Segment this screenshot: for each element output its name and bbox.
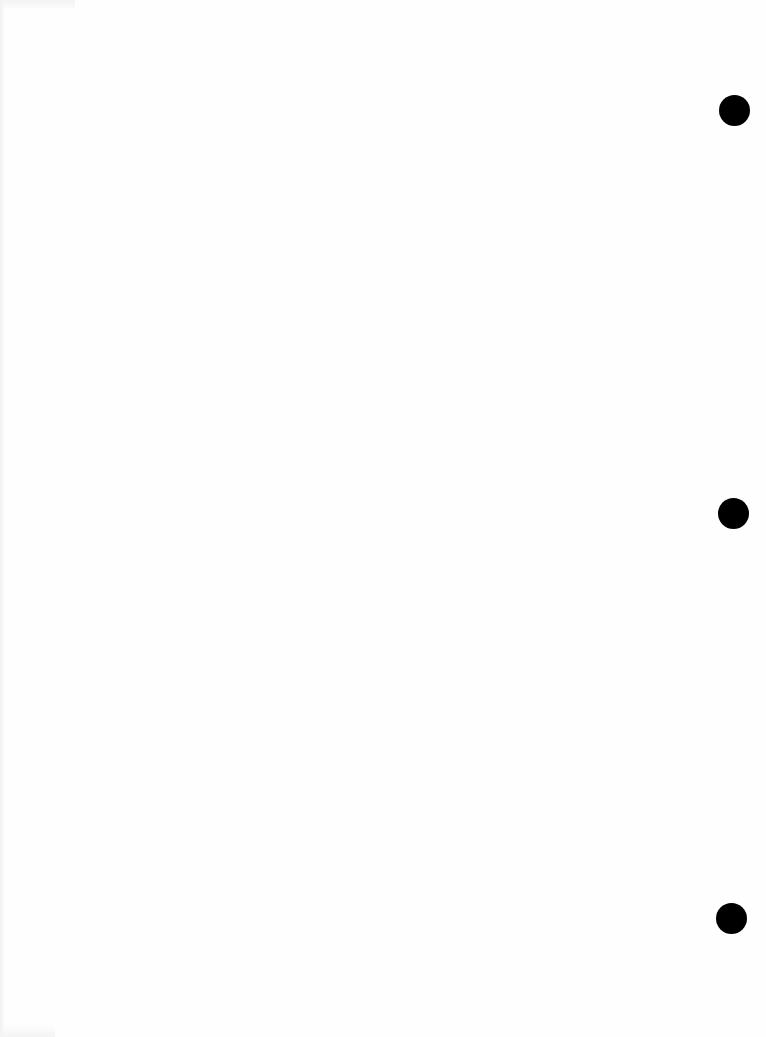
- bottom-left-scan-smudge: [0, 1025, 55, 1037]
- punch-hole-middle: [718, 498, 749, 529]
- blank-paper-page: [0, 0, 766, 1037]
- top-left-scan-smudge: [0, 0, 75, 10]
- punch-hole-bottom: [716, 903, 747, 934]
- punch-hole-top: [719, 95, 750, 126]
- left-edge-shadow: [0, 0, 6, 1037]
